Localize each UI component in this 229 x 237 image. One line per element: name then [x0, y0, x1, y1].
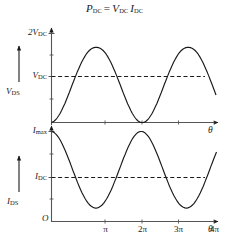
top-plot-waveform-curve [52, 47, 217, 122]
top-plot-group [49, 28, 219, 125]
vds-axis-arrow-label-sub: DS [12, 89, 20, 96]
top-plot-ylabel-2vdc-var: 2V [28, 27, 38, 37]
bottom-plot-origin-label: O [42, 213, 49, 223]
bottom-plot-ylabel-idc: IDC [35, 171, 47, 181]
bottom-plot-xtick-label-4pi: 4π [206, 224, 223, 234]
vds-axis-arrow-label: VDS [6, 86, 20, 96]
bottom-plot-waveform-curve [52, 132, 217, 209]
bottom-plot-group [49, 126, 219, 224]
top-plot-xaxis-theta-label: θ [208, 125, 213, 135]
bottom-plot-ylabel-imax-sub: max [36, 128, 47, 135]
ids-axis-arrow-label: IDS [7, 196, 18, 206]
top-plot-ylabel-2vdc: 2VDC [28, 27, 47, 37]
top-plot-ylabel-2vdc-sub: DC [38, 30, 47, 37]
top-plot-ylabel-vdc: VDC [32, 70, 47, 80]
bottom-plot-xtick-label-3pi: 3π [170, 224, 187, 234]
bottom-plot-xtick-label-pi: π [99, 224, 112, 234]
top-plot-ylabel-vdc-sub: DC [38, 73, 47, 80]
ids-axis-arrow-label-sub: DS [10, 199, 18, 206]
bottom-plot-ylabel-imax: Imax [33, 125, 47, 135]
bottom-plot-ylabel-idc-sub: DC [38, 174, 47, 181]
bottom-plot-xtick-label-2pi: 2π [134, 224, 151, 234]
figure-container: PDC=VDCIDC [0, 0, 229, 237]
